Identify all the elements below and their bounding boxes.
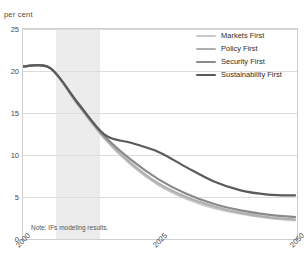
y-tick-label-5: 5 bbox=[3, 193, 19, 202]
legend-label: Sustainability First bbox=[221, 71, 282, 79]
legend-item-security-first[interactable]: Security First bbox=[196, 58, 282, 66]
series-line-policy-first bbox=[23, 65, 295, 220]
series-line-sustainability-first bbox=[23, 65, 295, 195]
legend-swatch-icon bbox=[196, 74, 216, 77]
y-tick-label-20: 20 bbox=[3, 67, 19, 76]
legend-item-policy-first[interactable]: Policy First bbox=[196, 45, 282, 53]
legend-label: Security First bbox=[221, 58, 265, 66]
legend-item-markets-first[interactable]: Markets First bbox=[196, 32, 282, 40]
legend-label: Policy First bbox=[221, 45, 258, 53]
legend-label: Markets First bbox=[221, 32, 264, 40]
legend-swatch-icon bbox=[196, 35, 216, 38]
y-axis-unit-label: per cent bbox=[4, 10, 33, 19]
y-tick-label-10: 10 bbox=[3, 151, 19, 160]
y-tick-label-25: 25 bbox=[3, 25, 19, 34]
series-line-markets-first bbox=[23, 65, 295, 220]
y-tick-label-15: 15 bbox=[3, 109, 19, 118]
chart-legend: Markets FirstPolicy FirstSecurity FirstS… bbox=[196, 32, 282, 79]
legend-swatch-icon bbox=[196, 48, 216, 51]
chart-note: Note: IFs modeling results. bbox=[31, 224, 108, 231]
figure-container: per cent Note: IFs modeling results. 051… bbox=[0, 0, 304, 269]
series-line-security-first bbox=[23, 65, 295, 217]
legend-swatch-icon bbox=[196, 61, 216, 64]
figure-title-cropped bbox=[0, 0, 304, 7]
legend-item-sustainability-first[interactable]: Sustainability First bbox=[196, 71, 282, 79]
x-tick-label-2000: 2000 bbox=[14, 231, 32, 249]
